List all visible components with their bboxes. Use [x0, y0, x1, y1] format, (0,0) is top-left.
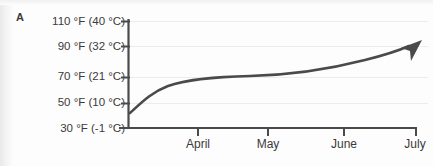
- x-axis-ticks: [198, 128, 416, 136]
- temperature-curve: [130, 46, 409, 113]
- curve-arrowhead-icon: [401, 40, 422, 61]
- gridlines: [130, 22, 428, 104]
- figure-panel: A 110 °F (40 °C) 90 °F (32 °C) 70 °F (21…: [0, 0, 433, 166]
- chart-plot-area: [0, 0, 433, 166]
